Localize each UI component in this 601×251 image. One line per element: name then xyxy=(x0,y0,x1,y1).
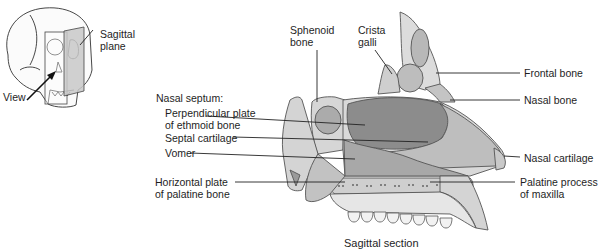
label-nasal-bone: Nasal bone xyxy=(524,94,577,106)
label-nasal-cartilage: Nasal cartilage xyxy=(524,152,593,164)
frontal-sinus-shape xyxy=(411,29,429,67)
label-crista-galli: Crista galli xyxy=(358,24,385,48)
label-palatine-process: Palatine process of maxilla xyxy=(520,176,598,200)
label-view: View xyxy=(3,91,26,103)
nasal-bone-shape xyxy=(425,84,455,102)
label-frontal-bone: Frontal bone xyxy=(524,67,583,79)
label-septal-cartilage: Septal cartilage xyxy=(165,132,237,144)
figure-caption: Sagittal section xyxy=(344,237,419,249)
label-sphenoid-bone: Sphenoid bone xyxy=(290,24,334,48)
label-perpendicular-plate: Perpendicular plate of ethmoid bone xyxy=(165,107,255,131)
sagittal-plane-icon xyxy=(45,27,84,104)
nasal-cartilage-shape xyxy=(494,148,505,170)
teeth-shape xyxy=(348,212,452,228)
label-sagittal-plane: Sagittal plane xyxy=(100,28,135,52)
label-horizontal-plate: Horizontal plate of palatine bone xyxy=(155,176,230,200)
label-vomer: Vomer xyxy=(165,147,195,159)
label-nasal-septum-heading: Nasal septum: xyxy=(156,92,223,104)
